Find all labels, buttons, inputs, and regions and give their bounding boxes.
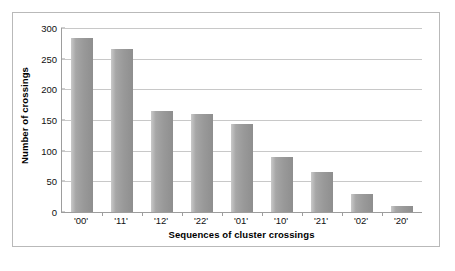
y-axis-tick-label: 150 (41, 115, 57, 126)
y-axis-title: Number of crossings (13, 13, 35, 218)
x-axis-tick-label: '22' (194, 215, 208, 226)
x-axis-tick-label: '11' (114, 215, 128, 226)
x-axis-tick-label: '10' (274, 215, 288, 226)
x-axis-tick-label: '12' (154, 215, 168, 226)
bar (191, 114, 213, 212)
bar (271, 157, 293, 212)
x-axis-tick-label: '00' (74, 215, 88, 226)
bar (311, 172, 333, 212)
y-axis-tick-label: 250 (41, 53, 57, 64)
y-axis-tick-labels: 050100150200250300 (35, 13, 61, 218)
y-axis-title-label: Number of crossings (19, 67, 30, 164)
y-axis-tick-label: 0 (52, 207, 57, 218)
bar (391, 206, 413, 212)
gridline (62, 28, 422, 29)
y-axis-tick-label: 50 (46, 176, 57, 187)
x-axis-tick-label: '02' (354, 215, 368, 226)
bar (71, 38, 93, 212)
bar (351, 194, 373, 212)
x-axis-tick-label: '01' (234, 215, 248, 226)
x-axis-tick-label: '20' (394, 215, 408, 226)
x-axis-tick-label: '21' (314, 215, 328, 226)
bar (151, 111, 173, 212)
y-axis-tick-label: 100 (41, 145, 57, 156)
chart-figure: Number of crossings 050100150200250300 '… (12, 12, 440, 247)
bar (111, 49, 133, 212)
x-axis-title: Sequences of cluster crossings (61, 229, 422, 240)
y-axis-tick-label: 200 (41, 84, 57, 95)
y-axis-tick-label: 300 (41, 23, 57, 34)
bar (231, 124, 253, 212)
plot-area (61, 28, 422, 213)
